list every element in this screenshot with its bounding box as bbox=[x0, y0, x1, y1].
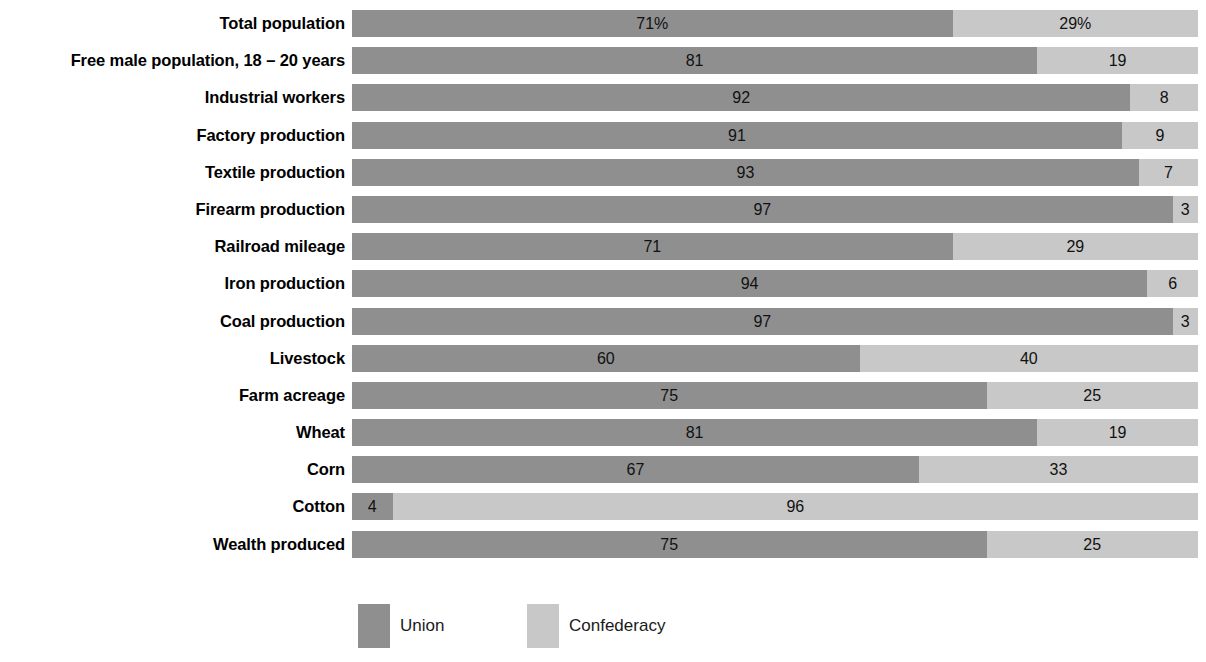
bar-value-union: 75 bbox=[660, 537, 678, 553]
bar-value-confederacy: 6 bbox=[1168, 276, 1177, 292]
bar-value-confederacy: 9 bbox=[1155, 128, 1164, 144]
chart-row: Wealth produced7525 bbox=[0, 531, 1206, 558]
bar-value-confederacy: 29 bbox=[1066, 239, 1084, 255]
chart-row: Railroad mileage7129 bbox=[0, 233, 1206, 260]
chart-row: Total population71%29% bbox=[0, 10, 1206, 37]
bar-value-confederacy: 25 bbox=[1083, 537, 1101, 553]
bar-segment-union[interactable]: 97 bbox=[352, 196, 1173, 223]
bar-segment-union[interactable]: 71% bbox=[352, 10, 953, 37]
chart-row: Firearm production973 bbox=[0, 196, 1206, 223]
bar-segment-confederacy[interactable]: 96 bbox=[393, 493, 1198, 520]
bar-track: 496 bbox=[352, 493, 1198, 520]
bar-segment-union[interactable]: 75 bbox=[352, 531, 987, 558]
bar-value-union: 81 bbox=[686, 53, 704, 69]
legend-item-confederacy[interactable]: Confederacy bbox=[527, 604, 665, 648]
bar-segment-confederacy[interactable]: 29 bbox=[953, 233, 1198, 260]
bar-segment-union[interactable]: 71 bbox=[352, 233, 953, 260]
bar-track: 71%29% bbox=[352, 10, 1198, 37]
bar-value-union: 94 bbox=[741, 276, 759, 292]
bar-value-confederacy: 8 bbox=[1160, 90, 1169, 106]
chart-row: Cotton496 bbox=[0, 493, 1206, 520]
row-label: Wheat bbox=[0, 419, 345, 446]
bar-value-confederacy: 3 bbox=[1181, 314, 1190, 330]
row-label: Corn bbox=[0, 456, 345, 483]
bar-value-union: 91 bbox=[728, 128, 746, 144]
bar-value-confederacy: 19 bbox=[1109, 53, 1127, 69]
bar-value-union: 75 bbox=[660, 388, 678, 404]
bar-track: 973 bbox=[352, 308, 1198, 335]
bar-value-union: 4 bbox=[368, 499, 377, 515]
bar-segment-confederacy[interactable]: 33 bbox=[919, 456, 1198, 483]
legend-label-confederacy: Confederacy bbox=[569, 616, 665, 636]
legend-item-union[interactable]: Union bbox=[358, 604, 444, 648]
row-label: Farm acreage bbox=[0, 382, 345, 409]
bar-value-union: 93 bbox=[736, 165, 754, 181]
bar-track: 937 bbox=[352, 159, 1198, 186]
row-label: Railroad mileage bbox=[0, 233, 345, 260]
bar-track: 946 bbox=[352, 270, 1198, 297]
row-label: Total population bbox=[0, 10, 345, 37]
bar-value-union: 60 bbox=[597, 351, 615, 367]
bar-value-union: 81 bbox=[686, 425, 704, 441]
bar-segment-confederacy[interactable]: 19 bbox=[1037, 47, 1198, 74]
chart-row: Textile production937 bbox=[0, 159, 1206, 186]
chart-row: Factory production919 bbox=[0, 122, 1206, 149]
legend-label-union: Union bbox=[400, 616, 444, 636]
bar-segment-union[interactable]: 97 bbox=[352, 308, 1173, 335]
bar-segment-confederacy[interactable]: 3 bbox=[1173, 308, 1198, 335]
stacked-bar-chart: Total population71%29%Free male populati… bbox=[0, 0, 1206, 662]
row-label: Cotton bbox=[0, 493, 345, 520]
chart-row: Livestock6040 bbox=[0, 345, 1206, 372]
bar-segment-union[interactable]: 94 bbox=[352, 270, 1147, 297]
bar-value-union: 67 bbox=[627, 462, 645, 478]
bar-value-confederacy: 19 bbox=[1109, 425, 1127, 441]
chart-row: Free male population, 18 – 20 years8119 bbox=[0, 47, 1206, 74]
bar-segment-union[interactable]: 67 bbox=[352, 456, 919, 483]
row-label: Factory production bbox=[0, 122, 345, 149]
chart-row: Coal production973 bbox=[0, 308, 1206, 335]
bar-segment-confederacy[interactable]: 25 bbox=[987, 382, 1199, 409]
bar-value-union: 92 bbox=[732, 90, 750, 106]
legend-swatch-confederacy-icon bbox=[527, 604, 559, 648]
bar-value-confederacy: 29% bbox=[1059, 16, 1091, 32]
bar-segment-confederacy[interactable]: 6 bbox=[1147, 270, 1198, 297]
row-label: Firearm production bbox=[0, 196, 345, 223]
bar-segment-union[interactable]: 92 bbox=[352, 84, 1130, 111]
bar-value-confederacy: 40 bbox=[1020, 351, 1038, 367]
bar-track: 8119 bbox=[352, 419, 1198, 446]
bar-value-confederacy: 33 bbox=[1050, 462, 1068, 478]
bar-segment-confederacy[interactable]: 7 bbox=[1139, 159, 1198, 186]
bar-value-confederacy: 96 bbox=[786, 499, 804, 515]
bar-segment-union[interactable]: 93 bbox=[352, 159, 1139, 186]
bar-value-confederacy: 25 bbox=[1083, 388, 1101, 404]
legend-swatch-union-icon bbox=[358, 604, 390, 648]
bar-segment-confederacy[interactable]: 8 bbox=[1130, 84, 1198, 111]
bar-track: 6733 bbox=[352, 456, 1198, 483]
bar-segment-confederacy[interactable]: 40 bbox=[860, 345, 1198, 372]
bar-segment-union[interactable]: 75 bbox=[352, 382, 987, 409]
bar-segment-union[interactable]: 81 bbox=[352, 47, 1037, 74]
chart-row: Corn6733 bbox=[0, 456, 1206, 483]
bar-track: 8119 bbox=[352, 47, 1198, 74]
bar-segment-union[interactable]: 91 bbox=[352, 122, 1122, 149]
row-label: Iron production bbox=[0, 270, 345, 297]
bar-track: 7129 bbox=[352, 233, 1198, 260]
bar-segment-confederacy[interactable]: 19 bbox=[1037, 419, 1198, 446]
bar-segment-confederacy[interactable]: 29% bbox=[953, 10, 1198, 37]
bar-track: 7525 bbox=[352, 531, 1198, 558]
bar-segment-confederacy[interactable]: 3 bbox=[1173, 196, 1198, 223]
row-label: Industrial workers bbox=[0, 84, 345, 111]
bar-track: 973 bbox=[352, 196, 1198, 223]
bar-segment-confederacy[interactable]: 25 bbox=[987, 531, 1199, 558]
bar-segment-union[interactable]: 81 bbox=[352, 419, 1037, 446]
row-label: Wealth produced bbox=[0, 531, 345, 558]
bar-value-confederacy: 3 bbox=[1181, 202, 1190, 218]
bar-segment-union[interactable]: 4 bbox=[352, 493, 393, 520]
bar-value-union: 97 bbox=[753, 202, 771, 218]
bar-segment-confederacy[interactable]: 9 bbox=[1122, 122, 1198, 149]
chart-row: Industrial workers928 bbox=[0, 84, 1206, 111]
chart-row: Iron production946 bbox=[0, 270, 1206, 297]
bar-segment-union[interactable]: 60 bbox=[352, 345, 860, 372]
bar-value-union: 97 bbox=[753, 314, 771, 330]
bar-value-union: 71% bbox=[636, 16, 668, 32]
